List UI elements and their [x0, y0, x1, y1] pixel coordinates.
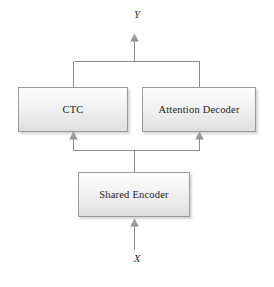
arrowhead-into-attention	[195, 131, 203, 140]
input-variable-label: X	[129, 252, 145, 264]
node-shared-encoder[interactable]: Shared Encoder	[78, 172, 190, 217]
node-attention-decoder[interactable]: Attention Decoder	[142, 87, 256, 132]
node-attention-decoder-label: Attention Decoder	[158, 104, 239, 116]
arrowhead-into-encoder	[130, 218, 138, 227]
diagram-canvas: Y CTC Attention Decoder Shared Encoder X	[0, 0, 274, 287]
node-shared-encoder-label: Shared Encoder	[99, 189, 169, 201]
node-ctc[interactable]: CTC	[18, 87, 128, 132]
node-ctc-label: CTC	[62, 104, 83, 116]
arrowhead-into-ctc	[69, 131, 77, 140]
output-variable-label: Y	[129, 8, 145, 20]
arrowhead-into-output	[130, 33, 138, 42]
connector-layer	[0, 0, 274, 287]
